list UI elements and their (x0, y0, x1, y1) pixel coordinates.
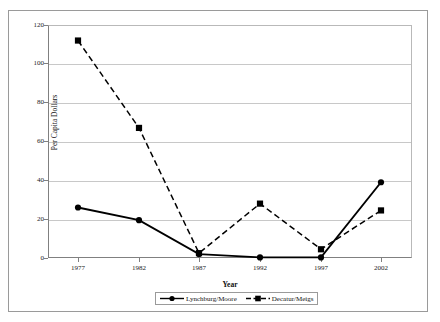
legend-entry-lynchburg-moore: Lynchburg/Moore (160, 294, 237, 303)
y-axis-title: Per Capita Dollars (50, 63, 59, 183)
gridline-100 (49, 64, 411, 65)
x-tick-mark-1997 (321, 258, 322, 262)
legend-entry-decatur-meigs: Decatur/Meigs (246, 294, 314, 303)
y-tick-label-20: 20 (24, 215, 44, 223)
y-tick-label-0: 0 (24, 254, 44, 262)
y-tick-label-120: 120 (24, 21, 44, 29)
circle-marker-icon (160, 294, 184, 303)
x-tick-label-1982: 1982 (114, 264, 164, 272)
chart-legend: Lynchburg/Moore Decatur/Meigs (155, 292, 318, 305)
y-tick-mark-60 (44, 141, 48, 142)
x-tick-label-1987: 1987 (174, 264, 224, 272)
gridline-60 (49, 142, 411, 143)
plot-area (48, 25, 412, 258)
x-axis-title: Year (48, 280, 412, 289)
x-tick-label-1977: 1977 (53, 264, 103, 272)
y-tick-mark-100 (44, 63, 48, 64)
x-tick-label-1997: 1997 (296, 264, 346, 272)
gridline-40 (49, 181, 411, 182)
x-tick-mark-1987 (199, 258, 200, 262)
y-tick-label-100: 100 (24, 59, 44, 67)
y-tick-mark-20 (44, 219, 48, 220)
gridline-80 (49, 103, 411, 104)
y-tick-mark-80 (44, 102, 48, 103)
x-tick-mark-2002 (381, 258, 382, 262)
y-tick-mark-120 (44, 25, 48, 26)
y-tick-label-40: 40 (24, 176, 44, 184)
chart-figure: 120 100 80 60 40 20 0 Per Capita Dollars… (0, 0, 440, 322)
legend-label-lynchburg-moore: Lynchburg/Moore (186, 295, 237, 303)
x-tick-mark-1992 (260, 258, 261, 262)
x-tick-mark-1977 (78, 258, 79, 262)
legend-label-decatur-meigs: Decatur/Meigs (272, 295, 314, 303)
x-tick-label-1992: 1992 (235, 264, 285, 272)
y-tick-label-80: 80 (24, 98, 44, 106)
y-tick-mark-0 (44, 258, 48, 259)
x-tick-mark-1982 (139, 258, 140, 262)
gridline-20 (49, 220, 411, 221)
x-tick-label-2002: 2002 (356, 264, 406, 272)
y-tick-label-60: 60 (24, 137, 44, 145)
y-tick-mark-40 (44, 180, 48, 181)
square-marker-icon (246, 294, 270, 303)
